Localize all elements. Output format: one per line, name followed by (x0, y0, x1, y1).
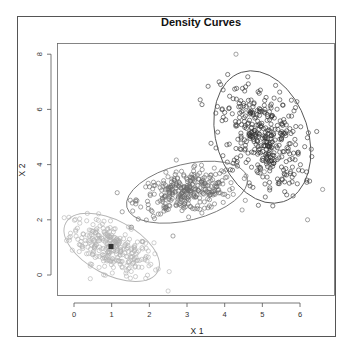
y-tick-label: 0 (35, 273, 44, 277)
x-tick-label: 1 (110, 310, 114, 319)
density-curves-chart: Density Curves 0123456 02468 X 1 X 2 (0, 0, 352, 356)
y-tick-label: 4 (35, 163, 44, 167)
x-tick-label: 6 (298, 310, 302, 319)
x-tick-label: 2 (147, 310, 151, 319)
cluster-1-center-marker (109, 244, 114, 249)
y-axis-label: X 2 (17, 163, 27, 176)
plot-area (58, 44, 335, 296)
y-axis: 02468 (35, 52, 51, 277)
y-tick-label: 6 (35, 107, 44, 111)
chart-title: Density Curves (161, 16, 241, 28)
x-tick-label: 3 (185, 310, 189, 319)
x-axis-label: X 1 (191, 326, 204, 336)
x-tick-label: 5 (260, 310, 264, 319)
x-tick-label: 0 (72, 310, 76, 319)
x-tick-label: 4 (223, 310, 227, 319)
y-tick-label: 2 (35, 218, 44, 222)
x-axis: 0123456 (72, 303, 302, 319)
y-tick-label: 8 (35, 52, 44, 56)
